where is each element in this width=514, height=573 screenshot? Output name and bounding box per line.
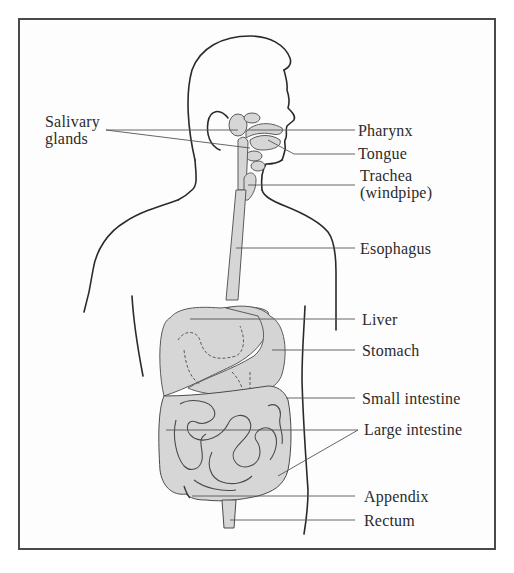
label-appendix: Appendix — [364, 488, 429, 505]
label-rectum: Rectum — [364, 512, 415, 529]
label-trachea: Trachea (windpipe) — [360, 167, 432, 201]
label-liver: Liver — [362, 311, 398, 328]
salivary-gland-upper — [244, 113, 260, 123]
head-organs — [229, 113, 283, 200]
large-intestine-shape — [159, 386, 291, 501]
digestive-system-illustration — [0, 0, 514, 573]
label-large-intestine: Large intestine — [364, 421, 462, 438]
esophagus-shape — [226, 190, 246, 300]
intestines — [159, 386, 291, 528]
salivary-gland-sublingual — [246, 151, 262, 161]
label-salivary-glands: Salivary glands — [45, 113, 100, 147]
label-trachea-line2: (windpipe) — [360, 184, 432, 201]
leader-salivary-2 — [106, 130, 250, 148]
label-small-intestine: Small intestine — [362, 390, 461, 407]
label-stomach: Stomach — [362, 342, 419, 359]
label-tongue: Tongue — [358, 145, 407, 162]
label-salivary-line2: glands — [45, 130, 100, 147]
leader-tongue — [268, 140, 355, 154]
label-esophagus: Esophagus — [360, 240, 431, 257]
label-trachea-line1: Trachea — [360, 167, 412, 184]
label-pharynx: Pharynx — [358, 122, 413, 139]
salivary-gland-submandibular — [251, 161, 265, 171]
label-salivary-line1: Salivary — [45, 113, 100, 130]
rectum-shape — [222, 500, 236, 528]
tongue-shape — [250, 136, 280, 151]
